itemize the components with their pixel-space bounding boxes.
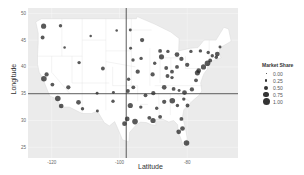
data-point bbox=[41, 36, 45, 40]
x-axis-label: Latitude bbox=[138, 163, 163, 170]
data-point bbox=[96, 109, 99, 112]
data-point bbox=[170, 70, 174, 74]
data-point bbox=[96, 92, 99, 95]
data-point bbox=[59, 104, 64, 109]
legend-entry-label: 0.75 bbox=[273, 92, 283, 98]
data-point bbox=[127, 78, 130, 81]
data-point bbox=[178, 89, 181, 92]
data-point bbox=[180, 126, 185, 131]
y-tick-label: 40 bbox=[21, 64, 27, 69]
data-point bbox=[164, 66, 168, 70]
data-point bbox=[186, 104, 190, 108]
legend-entry-label: 0.00 bbox=[273, 71, 283, 77]
data-point bbox=[155, 107, 158, 110]
data-point bbox=[207, 51, 210, 54]
data-point bbox=[208, 59, 212, 63]
data-point bbox=[131, 85, 135, 89]
data-point bbox=[132, 119, 138, 125]
legend-swatch-icon bbox=[262, 73, 270, 74]
data-point bbox=[153, 62, 156, 65]
data-point bbox=[59, 24, 62, 27]
data-point bbox=[179, 57, 183, 61]
data-point bbox=[215, 56, 218, 59]
legend-entry-label: 0.25 bbox=[273, 78, 283, 84]
data-point bbox=[175, 52, 180, 57]
data-point bbox=[166, 74, 170, 78]
data-point bbox=[170, 76, 173, 79]
legend-entry: 1.00 bbox=[262, 98, 293, 105]
legend-title: Market Share bbox=[262, 62, 293, 68]
legend-swatch-icon bbox=[262, 92, 270, 98]
legend: Market Share 0.000.250.500.751.00 bbox=[262, 62, 293, 105]
y-tick-label: 50 bbox=[21, 11, 27, 16]
data-point bbox=[136, 70, 140, 74]
data-point bbox=[190, 87, 194, 91]
data-point bbox=[151, 91, 155, 95]
data-point bbox=[185, 63, 189, 67]
x-tick-label: -80 bbox=[184, 160, 191, 165]
data-point bbox=[128, 103, 133, 108]
scatter-map-chart: -120-100-80504540353025 bbox=[0, 0, 304, 175]
data-point bbox=[111, 100, 114, 103]
data-point bbox=[158, 49, 162, 53]
y-tick-label: 30 bbox=[21, 118, 27, 123]
data-point bbox=[50, 83, 54, 87]
data-point bbox=[63, 46, 66, 49]
data-point bbox=[81, 107, 84, 110]
y-tick-label: 35 bbox=[21, 91, 27, 96]
data-point bbox=[162, 100, 166, 104]
data-point bbox=[115, 29, 118, 32]
data-point bbox=[182, 97, 185, 100]
data-point bbox=[179, 117, 183, 121]
legend-swatch-icon bbox=[262, 86, 270, 90]
x-tick-label: -120 bbox=[47, 160, 57, 165]
data-point bbox=[41, 76, 47, 82]
data-point bbox=[76, 100, 81, 105]
legend-entry: 0.50 bbox=[262, 84, 293, 91]
data-point bbox=[201, 64, 206, 69]
data-point bbox=[129, 29, 132, 32]
y-axis-label: Longitude bbox=[10, 65, 17, 95]
data-point bbox=[101, 67, 105, 71]
legend-swatch-icon bbox=[262, 98, 270, 105]
data-point bbox=[129, 47, 132, 50]
data-point bbox=[199, 49, 202, 52]
data-point bbox=[150, 72, 154, 76]
data-point bbox=[194, 78, 198, 82]
legend-entry-label: 0.50 bbox=[273, 85, 283, 91]
data-point bbox=[182, 90, 187, 95]
data-point bbox=[175, 65, 179, 69]
legend-entry: 0.25 bbox=[262, 77, 293, 84]
data-point bbox=[140, 38, 144, 42]
data-point bbox=[131, 58, 134, 61]
data-point bbox=[139, 105, 142, 108]
data-point bbox=[139, 57, 142, 60]
legend-swatch-icon bbox=[262, 79, 270, 82]
data-point bbox=[184, 140, 190, 146]
legend-entry-label: 1.00 bbox=[273, 99, 283, 105]
y-tick-label: 25 bbox=[21, 145, 27, 150]
data-point bbox=[55, 96, 61, 102]
data-point bbox=[159, 54, 164, 59]
y-tick-label: 45 bbox=[21, 38, 27, 43]
data-point bbox=[44, 72, 48, 76]
data-point bbox=[170, 98, 176, 104]
data-point bbox=[162, 85, 167, 90]
legend-entry: 0.00 bbox=[262, 70, 293, 77]
legend-entry: 0.75 bbox=[262, 91, 293, 98]
data-point bbox=[196, 68, 201, 73]
data-point bbox=[176, 129, 181, 134]
data-point bbox=[172, 87, 176, 91]
data-point bbox=[77, 61, 80, 64]
data-point bbox=[147, 116, 151, 120]
data-point bbox=[66, 85, 70, 89]
data-point bbox=[41, 24, 46, 29]
data-point bbox=[176, 104, 179, 107]
data-point bbox=[219, 46, 222, 49]
data-point bbox=[89, 35, 92, 38]
data-point bbox=[158, 115, 162, 119]
data-point bbox=[125, 117, 130, 122]
data-point bbox=[211, 54, 214, 57]
x-tick-label: -100 bbox=[115, 160, 125, 165]
data-point bbox=[150, 118, 155, 123]
